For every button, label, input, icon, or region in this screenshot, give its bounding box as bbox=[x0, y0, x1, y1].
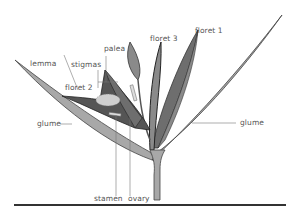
stigmas-shape bbox=[96, 94, 120, 106]
label-glume-left: glume bbox=[37, 120, 61, 128]
palea-shape bbox=[128, 42, 140, 80]
spikelet-illustration bbox=[0, 0, 296, 215]
label-stigmas: stigmas bbox=[71, 61, 101, 69]
label-ovary: ovary bbox=[128, 195, 150, 203]
label-floret-3: floret 3 bbox=[150, 35, 178, 43]
label-palea: palea bbox=[104, 45, 125, 53]
bottom-divider bbox=[14, 204, 286, 206]
spikelet-diagram: floret 1 floret 3 palea stigmas lemma fl… bbox=[0, 0, 296, 215]
label-stamen: stamen bbox=[94, 195, 123, 203]
label-floret-2: floret 2 bbox=[65, 84, 93, 92]
label-lemma: lemma bbox=[30, 60, 56, 68]
label-floret-1: floret 1 bbox=[195, 27, 223, 35]
ovary-shape bbox=[130, 85, 137, 101]
label-glume-right: glume bbox=[240, 119, 264, 127]
